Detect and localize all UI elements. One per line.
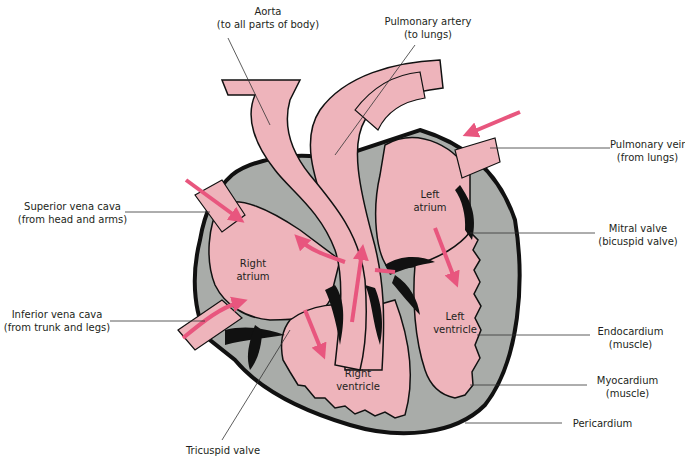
chamber-right-ventricle: Right ventricle xyxy=(328,367,388,393)
label-pulmonary-vein-subtitle: (from lungs) xyxy=(610,151,685,164)
label-myocardium: Myocardium (muscle) xyxy=(590,374,665,400)
label-inferior-vena-cava-subtitle: (from trunk and legs) xyxy=(2,321,112,334)
label-tricuspid-valve: Tricuspid valve xyxy=(178,444,268,457)
chamber-left-atrium-line2: atrium xyxy=(405,201,455,214)
chamber-left-atrium-line1: Left xyxy=(405,188,455,201)
label-aorta-subtitle: (to all parts of body) xyxy=(198,18,338,31)
chamber-right-atrium-line2: atrium xyxy=(228,270,278,283)
label-pericardium: Pericardium xyxy=(565,417,640,430)
label-pulmonary-vein: Pulmonary vein (from lungs) xyxy=(610,138,685,164)
label-pulmonary-vein-title: Pulmonary vein xyxy=(610,138,685,151)
chamber-right-ventricle-line1: Right xyxy=(328,367,388,380)
label-superior-vena-cava-title: Superior vena cava xyxy=(15,200,130,213)
label-myocardium-subtitle: (muscle) xyxy=(590,387,665,400)
label-myocardium-title: Myocardium xyxy=(590,374,665,387)
chamber-right-ventricle-line2: ventricle xyxy=(328,380,388,393)
label-mitral-valve-subtitle: (bicuspid valve) xyxy=(598,235,678,248)
label-pulmonary-artery-title: Pulmonary artery xyxy=(368,15,488,28)
label-superior-vena-cava: Superior vena cava (from head and arms) xyxy=(15,200,130,226)
chamber-left-ventricle-line1: Left xyxy=(425,310,485,323)
label-mitral-valve-title: Mitral valve xyxy=(598,222,678,235)
label-mitral-valve: Mitral valve (bicuspid valve) xyxy=(598,222,678,248)
label-pericardium-title: Pericardium xyxy=(565,417,640,430)
label-endocardium: Endocardium (muscle) xyxy=(593,325,668,351)
label-aorta: Aorta (to all parts of body) xyxy=(198,5,338,31)
chamber-left-atrium: Left atrium xyxy=(405,188,455,214)
label-endocardium-subtitle: (muscle) xyxy=(593,338,668,351)
chamber-right-atrium: Right atrium xyxy=(228,257,278,283)
chamber-left-ventricle-line2: ventricle xyxy=(425,323,485,336)
arrow-pulmonary-vein xyxy=(470,112,520,133)
label-inferior-vena-cava-title: Inferior vena cava xyxy=(2,308,112,321)
label-aorta-title: Aorta xyxy=(198,5,338,18)
label-endocardium-title: Endocardium xyxy=(593,325,668,338)
label-superior-vena-cava-subtitle: (from head and arms) xyxy=(15,213,130,226)
label-inferior-vena-cava: Inferior vena cava (from trunk and legs) xyxy=(2,308,112,334)
label-pulmonary-artery: Pulmonary artery (to lungs) xyxy=(368,15,488,41)
label-tricuspid-valve-title: Tricuspid valve xyxy=(178,444,268,457)
chamber-left-ventricle: Left ventricle xyxy=(425,310,485,336)
chamber-right-atrium-line1: Right xyxy=(228,257,278,270)
label-pulmonary-artery-subtitle: (to lungs) xyxy=(368,28,488,41)
heart-diagram: Aorta (to all parts of body) Pulmonary a… xyxy=(0,0,685,460)
pulmonary-vein-shape xyxy=(455,138,500,178)
